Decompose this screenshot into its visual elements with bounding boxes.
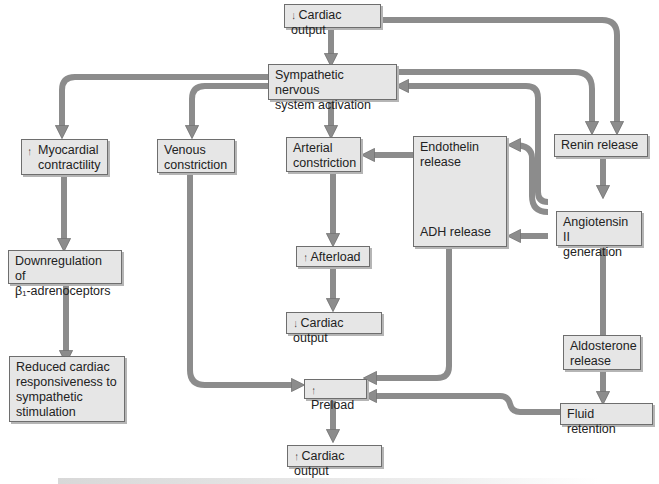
node-fluid-retention: Fluid retention <box>560 403 653 425</box>
node-aldosterone-release: Aldosterone release <box>563 335 641 370</box>
node-cardiac-output-increased: ↑Cardiac output <box>287 445 382 467</box>
node-preload-increased: ↑Preload <box>304 379 367 399</box>
node-beta1-downregulation: Downregulation of β₁-adrenoceptors <box>8 250 122 284</box>
node-cardiac-output-decreased: ↓Cardiac output <box>284 4 381 28</box>
down-arrow-icon: ↓ <box>292 8 295 23</box>
caption-band <box>58 478 598 484</box>
node-reduced-cardiac-responsiveness: Reduced cardiac responsiveness to sympat… <box>9 356 125 422</box>
node-cardiac-output-decreased-2: ↓Cardiac output <box>286 312 382 334</box>
up-arrow-icon: ↑ <box>295 449 298 464</box>
arrow-sns-to-renin <box>397 72 592 128</box>
node-angiotensin-ii: Angiotensin II generation <box>556 211 642 246</box>
node-arterial-constriction: Arterial constriction <box>286 137 361 172</box>
node-sns-activation: Sympathetic nervous system activation <box>268 64 397 100</box>
node-renin-release: Renin release <box>554 134 648 157</box>
arrow-venous-to-preload <box>190 172 298 385</box>
node-venous-constriction: Venous constriction <box>157 139 235 173</box>
arrow-fluid-to-preload <box>370 396 560 412</box>
up-arrow-icon: ↑ <box>304 250 307 265</box>
down-arrow-icon: ↓ <box>294 316 297 331</box>
node-endothelin-adh-release: Endothelin release ADH release <box>413 136 507 247</box>
up-arrow-icon: ↑ <box>312 383 315 398</box>
up-arrow-icon: ↑ <box>28 144 31 159</box>
node-myocardial-contractility: ↑Myocardial contractility <box>21 139 108 175</box>
node-afterload-increased: ↑Afterload <box>296 246 370 267</box>
arrow-sns-to-venous <box>192 86 268 132</box>
